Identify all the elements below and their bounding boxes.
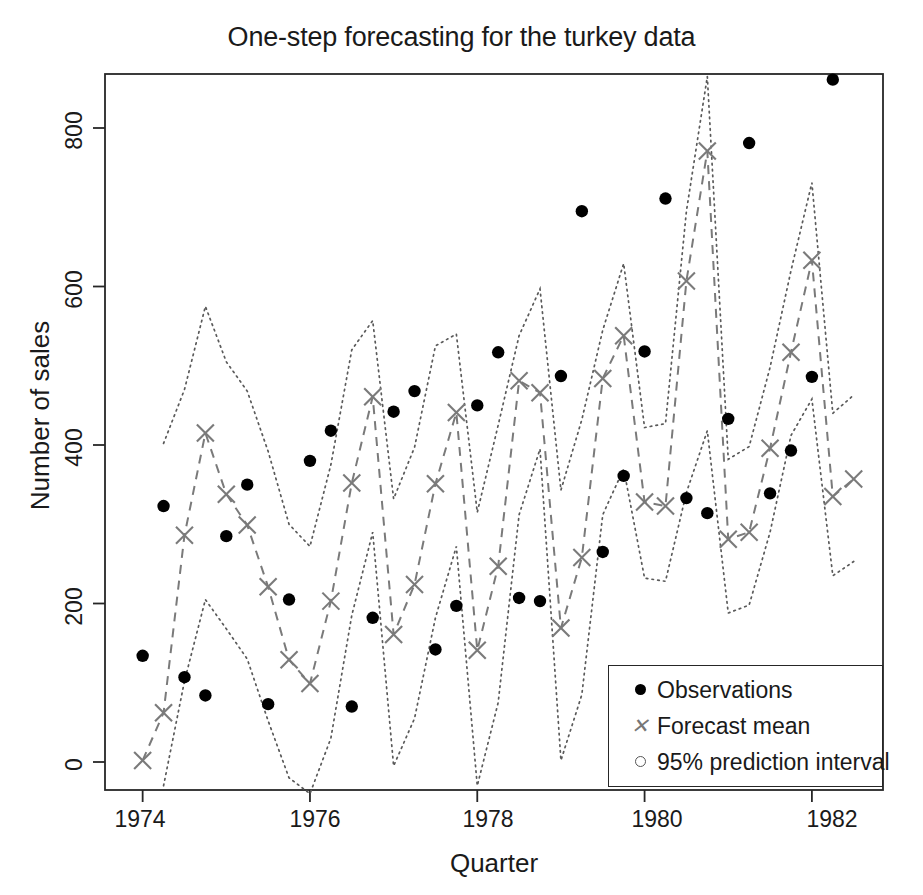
forecast-mean-marker — [594, 370, 611, 387]
observation-point — [450, 600, 462, 612]
observation-point — [471, 399, 483, 411]
forecast-mean-marker — [218, 486, 235, 503]
observation-point — [346, 700, 358, 712]
observation-point — [513, 592, 525, 604]
observation-point — [136, 650, 148, 662]
forecast-mean-marker — [301, 675, 318, 692]
forecast-mean-marker — [134, 752, 151, 769]
observation-point — [408, 385, 420, 397]
forecast-mean-marker — [741, 524, 758, 541]
observation-point — [534, 595, 546, 607]
observation-point — [638, 345, 650, 357]
observation-point — [743, 137, 755, 149]
legend-item-observations: Observations — [623, 672, 793, 708]
observation-point — [576, 205, 588, 217]
chart-legend: Observations ✕ Forecast mean 95% predict… — [608, 665, 883, 787]
observation-point — [701, 507, 713, 519]
forecast-mean-marker — [782, 344, 799, 361]
observation-point — [387, 406, 399, 418]
legend-item-prediction-interval: 95% prediction interval — [623, 744, 890, 780]
forecast-mean-marker — [552, 620, 569, 637]
forecast-mean-marker — [364, 388, 381, 405]
observation-point — [325, 425, 337, 437]
forecast-mean-marker — [427, 475, 444, 492]
forecast-mean-marker — [239, 517, 256, 534]
legend-item-forecast-mean: ✕ Forecast mean — [623, 708, 810, 744]
observation-point — [178, 671, 190, 683]
observation-point — [555, 370, 567, 382]
observation-point — [492, 346, 504, 358]
observation-point — [597, 546, 609, 558]
forecast-mean-marker — [260, 578, 277, 595]
legend-label-prediction-interval: 95% prediction interval — [657, 749, 890, 776]
observation-point — [659, 192, 671, 204]
legend-label-observations: Observations — [657, 677, 793, 704]
legend-label-forecast-mean: Forecast mean — [657, 713, 810, 740]
observation-point — [722, 413, 734, 425]
forecast-mean-marker — [155, 704, 172, 721]
observation-point — [304, 455, 316, 467]
forecast-mean-marker — [406, 576, 423, 593]
observation-point — [680, 492, 692, 504]
observation-point — [199, 689, 211, 701]
observation-point — [429, 643, 441, 655]
observation-point — [806, 371, 818, 383]
forecast-mean-marker — [343, 475, 360, 492]
observation-point — [785, 444, 797, 456]
forecast-mean-marker — [281, 651, 298, 668]
observation-point — [220, 530, 232, 542]
observation-point — [827, 73, 839, 85]
observations-points — [136, 73, 839, 712]
forecast-mean-marker — [803, 252, 820, 269]
chart-page: One-step forecasting for the turkey data… — [0, 0, 923, 895]
forecast-mean-marker — [197, 425, 214, 442]
filled-dot-icon — [623, 681, 657, 699]
cross-mark-icon: ✕ — [623, 715, 657, 737]
observation-point — [283, 593, 295, 605]
forecast-mean-marker — [762, 440, 779, 457]
observation-point — [241, 478, 253, 490]
observation-point — [617, 470, 629, 482]
forecast-mean-marker — [322, 593, 339, 610]
open-circle-icon — [623, 753, 657, 771]
observation-point — [157, 500, 169, 512]
observation-point — [262, 698, 274, 710]
forecast-mean-marker — [532, 384, 549, 401]
forecast-mean-marker — [845, 471, 862, 488]
observation-point — [764, 487, 776, 499]
forecast-mean-marker — [824, 488, 841, 505]
observation-point — [366, 612, 378, 624]
